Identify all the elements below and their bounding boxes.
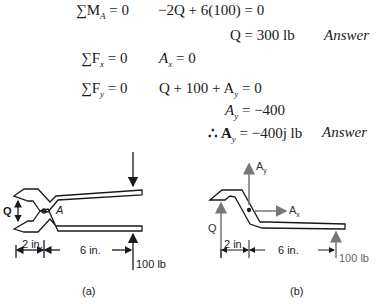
fig-a-caption: (a) (82, 285, 95, 297)
fig-b-dim-2in: 2 in. (224, 238, 245, 250)
fig-b-q-label: Q (208, 222, 217, 234)
fig-b-ax-label: Ax (289, 204, 300, 218)
fig-b-ay-label: Ay (256, 160, 267, 174)
fig-a-q-label: Q (3, 205, 12, 217)
fig-a-dim-2in: 2 in. (22, 238, 43, 250)
figure-a-pliers (0, 0, 379, 304)
fig-a-dim-6in: 6 in. (80, 244, 101, 256)
fig-a-force-label: 100 lb (136, 258, 166, 270)
fig-b-force-label: 100 lb (339, 252, 369, 264)
fig-b-dim-6in: 6 in. (278, 244, 299, 256)
fig-b-caption: (b) (290, 285, 303, 297)
fig-a-pivot-label: A (56, 204, 63, 216)
